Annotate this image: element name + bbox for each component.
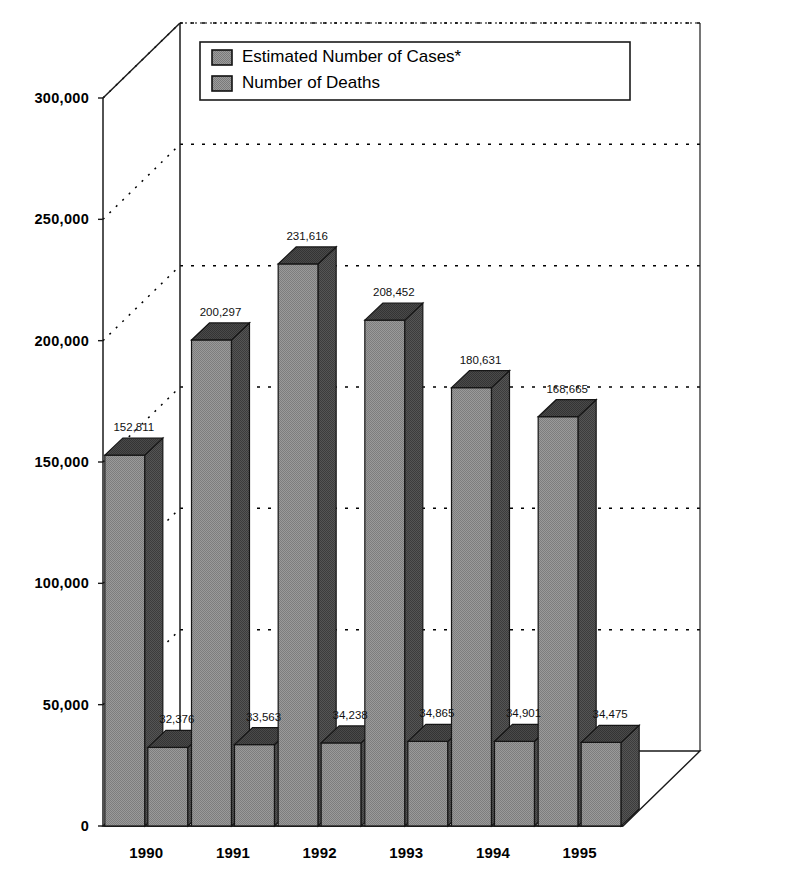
grid-depth-line [103, 144, 180, 219]
bar-value-label: 33,563 [246, 711, 281, 723]
x-category-label: 1994 [476, 844, 511, 861]
y-tick-label: 50,000 [43, 697, 89, 713]
bar-front-face [148, 747, 188, 826]
bar-front-face [452, 388, 492, 826]
bar-value-label: 180,631 [460, 354, 502, 366]
x-category-label: 1991 [216, 844, 250, 861]
bar-value-label: 34,865 [419, 707, 454, 719]
x-category-label: 1993 [389, 844, 423, 861]
bar-value-label: 152,811 [113, 421, 154, 433]
y-tick-label: 100,000 [34, 575, 89, 591]
bar-chart-3d: 050,000100,000150,000200,000250,000300,0… [0, 0, 790, 881]
bar-value-label: 231,616 [286, 230, 328, 242]
bar-front-face [581, 742, 621, 826]
bar-value-label: 200,297 [200, 306, 242, 318]
bar-front-face [321, 743, 361, 826]
y-tick-label: 150,000 [34, 454, 89, 470]
y-tick-label: 0 [81, 818, 89, 834]
x-category-label: 1990 [129, 844, 163, 861]
bar-value-label: 208,452 [373, 286, 415, 298]
bar-front-face [105, 455, 145, 826]
bar-front-face [495, 741, 535, 826]
legend-swatch-cases [212, 50, 232, 65]
bar-value-label: 34,901 [506, 707, 541, 719]
bar-front-face [408, 741, 448, 826]
bar-front-face [192, 340, 232, 826]
x-category-label: 1992 [303, 844, 337, 861]
y-tick-label: 250,000 [34, 211, 89, 227]
chart-legend: Estimated Number of Cases*Number of Deat… [200, 42, 630, 100]
y-tick-label: 300,000 [34, 90, 89, 106]
bar-value-label: 168,665 [546, 383, 588, 395]
y-axis-tick-labels: 050,000100,000150,000200,000250,000300,0… [34, 90, 89, 834]
bar-value-label: 34,475 [593, 708, 628, 720]
y-tick-label: 200,000 [34, 333, 89, 349]
bars-group [105, 247, 639, 826]
legend-swatch-deaths [212, 76, 232, 91]
bar-front-face [538, 417, 578, 826]
x-category-label: 1995 [563, 844, 597, 861]
bar-front-face [365, 320, 405, 826]
bar-value-label: 32,376 [159, 713, 194, 725]
chart-container: 050,000100,000150,000200,000250,000300,0… [0, 0, 790, 881]
bar-3d [581, 725, 639, 826]
axis-top-depth-line [103, 23, 180, 98]
bar-front-face [235, 745, 275, 826]
legend-label: Estimated Number of Cases* [242, 47, 462, 66]
bar-front-face [278, 264, 318, 826]
x-axis-category-labels: 199019911992199319941995 [129, 844, 597, 861]
legend-label: Number of Deaths [242, 73, 380, 92]
bar-value-label: 34,238 [333, 709, 368, 721]
grid-depth-line [103, 266, 180, 341]
